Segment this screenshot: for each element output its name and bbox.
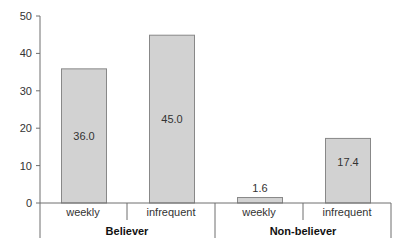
x-category-label: infrequent [147,206,196,218]
y-tick-label: 50 [20,10,32,22]
bar [326,138,371,203]
data-label: 45.0 [161,113,182,125]
x-category-label: weekly [65,206,100,218]
x-category-label: infrequent [323,206,372,218]
y-tick-label: 10 [20,160,32,172]
x-axis: weeklyinfrequentweeklyinfrequentBeliever… [40,203,391,238]
bar-chart: 01020304050 36.045.01.617.4 weeklyinfreq… [0,0,411,251]
x-group-label: Non-believer [270,225,337,237]
data-label: 1.6 [252,182,267,194]
x-category-label: weekly [241,206,276,218]
y-tick-label: 40 [20,47,32,59]
x-group-label: Believer [106,225,150,237]
data-label: 17.4 [337,156,358,168]
y-axis: 01020304050 [20,10,40,238]
bars: 36.045.01.617.4 [62,35,371,203]
y-tick-label: 30 [20,85,32,97]
data-label: 36.0 [73,130,94,142]
y-tick-label: 0 [26,197,32,209]
bar [238,198,283,203]
y-tick-label: 20 [20,122,32,134]
